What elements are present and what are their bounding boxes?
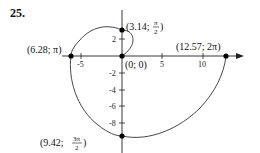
label-pi-half-den: 2	[154, 28, 158, 36]
y-tick-label: -6	[109, 102, 116, 111]
x-tick-label: 10	[198, 60, 206, 69]
x-tick-label: -5	[77, 60, 84, 69]
label-3pi-half-a: (9.42;	[40, 137, 64, 149]
y-tick-label: -8	[109, 119, 116, 128]
point-3pi-half	[119, 133, 124, 138]
label-pi: (6.28; π)	[27, 44, 62, 56]
x-axis-arrow-icon	[236, 53, 244, 59]
label-3pi-half-num: 3π	[73, 135, 81, 143]
y-tick-label: -2	[109, 69, 116, 78]
label-pi-half-a: (3.14;	[126, 21, 150, 33]
label-origin: (0; 0)	[125, 59, 147, 71]
label-3pi-half-b: )	[83, 137, 86, 149]
point-pi	[68, 53, 73, 58]
point-origin	[119, 53, 124, 58]
label-pi-half-b: )	[160, 21, 163, 33]
spiral-plot: -5 5 10 2 -2 -4 -6 -8 (0; 0) (3.14; π 2 …	[0, 0, 260, 153]
point-pi-half	[119, 27, 124, 32]
y-tick-label: -4	[109, 86, 116, 95]
x-tick-label: 5	[160, 60, 164, 69]
label-2pi: (12.57; 2π)	[176, 41, 221, 53]
y-tick-label: 2	[112, 35, 116, 44]
point-2pi	[223, 53, 228, 58]
label-3pi-half-den: 2	[75, 144, 79, 152]
label-pi-half-num: π	[154, 19, 158, 27]
